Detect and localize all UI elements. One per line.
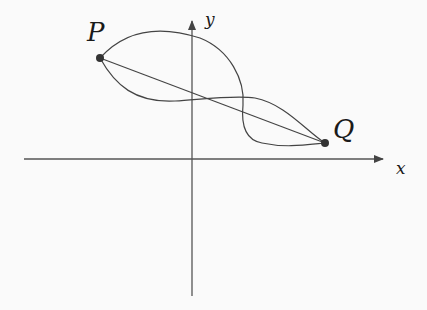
label-q: Q bbox=[333, 114, 354, 144]
point-p bbox=[96, 54, 104, 62]
label-y-axis: y bbox=[204, 9, 215, 29]
label-p: P bbox=[86, 17, 105, 47]
segment-pq bbox=[100, 58, 325, 143]
label-x-axis: x bbox=[396, 158, 406, 178]
point-q bbox=[321, 139, 329, 147]
upper-curve bbox=[100, 31, 325, 146]
diagram-canvas: P Q x y bbox=[0, 0, 427, 310]
